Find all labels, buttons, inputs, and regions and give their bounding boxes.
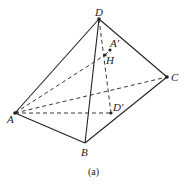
edge-DB: [85, 19, 99, 143]
edge-AB: [15, 113, 85, 143]
point-A: [13, 111, 17, 115]
label-H: H: [105, 54, 115, 66]
label-B: B: [81, 146, 88, 158]
edge-DD-prime-hidden: [99, 19, 111, 113]
point-C: [165, 75, 169, 79]
tetrahedron-diagram: D A' H C A D' B (a): [0, 0, 190, 186]
figure-caption: (a): [88, 166, 99, 178]
label-A-prime: A': [109, 37, 120, 49]
label-C: C: [171, 71, 179, 83]
label-A: A: [6, 113, 14, 125]
label-D-prime: D': [112, 101, 124, 113]
edge-DA: [15, 19, 99, 113]
label-D: D: [94, 6, 103, 18]
